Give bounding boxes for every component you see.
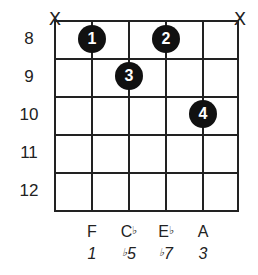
- fret-line: [54, 210, 239, 212]
- fret-line: [54, 20, 239, 22]
- fret-line: [54, 58, 239, 60]
- fret-number-12: 12: [14, 181, 44, 201]
- interval-label-string-2: 1: [77, 245, 107, 263]
- fret-line: [54, 96, 239, 98]
- note-label-string-2: F: [77, 223, 107, 241]
- interval-label-string-4: ♭7: [151, 245, 181, 263]
- fret-number-8: 8: [14, 29, 44, 49]
- finger-dot-1: 1: [78, 25, 106, 53]
- finger-dot-2: 2: [152, 25, 180, 53]
- interval-label-string-5: 3: [188, 245, 218, 263]
- interval-label-string-3: ♭5: [114, 245, 144, 263]
- string-line: [54, 20, 56, 212]
- finger-dot-3: 3: [115, 62, 143, 90]
- string-line: [237, 20, 239, 212]
- note-label-string-3: C♭: [114, 223, 144, 241]
- fret-line: [54, 134, 239, 136]
- fret-number-11: 11: [14, 143, 44, 163]
- string-line: [128, 20, 130, 212]
- fret-line: [54, 172, 239, 174]
- finger-dot-4: 4: [189, 100, 217, 128]
- note-label-string-5: A: [188, 223, 218, 241]
- fret-number-10: 10: [14, 105, 44, 125]
- fret-number-9: 9: [14, 67, 44, 87]
- note-label-string-4: E♭: [151, 223, 181, 241]
